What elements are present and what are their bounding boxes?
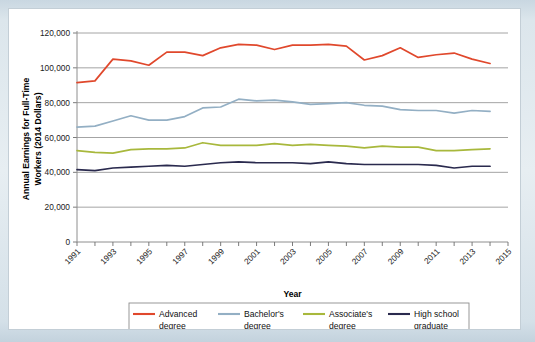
x-tick-label: 1999: [206, 246, 226, 266]
y-tick-label: 120,000: [40, 28, 70, 38]
line-chart: 020,00040,00060,00080,000100,000120,000 …: [9, 9, 520, 329]
y-tick-label: 40,000: [45, 167, 71, 177]
y-tick-label: 80,000: [45, 98, 71, 108]
legend-label-bachelor-s-degree: Bachelor's: [244, 309, 284, 319]
x-axis-tick-labels: 1991199319951997199920012003200520072009…: [62, 246, 513, 266]
chart-legend: AdvanceddegreeBachelor'sdegreeAssociate'…: [129, 303, 469, 329]
x-tick-label: 1993: [98, 246, 118, 266]
series-line-advanced-degree: [77, 44, 490, 82]
x-tick-label: 2001: [242, 246, 262, 266]
x-tick-label: 1997: [170, 246, 190, 266]
series-line-associate-s-degree: [77, 143, 490, 153]
x-tick-label: 2011: [422, 246, 442, 266]
y-tick-label: 60,000: [45, 133, 71, 143]
series-line-high-school-graduate: [77, 162, 490, 171]
legend-label-advanced-degree-line2: degree: [159, 321, 186, 329]
x-axis-title: Year: [283, 289, 302, 299]
y-tick-label: 0: [65, 237, 70, 247]
x-tick-label: 2003: [278, 246, 298, 266]
x-tick-label: 2009: [386, 246, 406, 266]
y-tick-label: 20,000: [45, 202, 71, 212]
x-tick-label: 1991: [62, 246, 82, 266]
legend-label-high-school-graduate-line2: graduate: [414, 321, 448, 329]
y-axis-ticks: [73, 33, 77, 242]
legend-label-bachelor-s-degree-line2: degree: [244, 321, 271, 329]
legend-label-high-school-graduate: High school: [414, 309, 459, 319]
legend-label-advanced-degree: Advanced: [159, 309, 197, 319]
chart-svg: 020,00040,00060,00080,000100,000120,000 …: [9, 9, 520, 329]
x-tick-label: 2007: [350, 246, 370, 266]
x-tick-label: 1995: [134, 246, 154, 266]
legend-label-associate-s-degree-line2: degree: [329, 321, 356, 329]
x-tick-label: 2013: [457, 246, 477, 266]
y-axis-title-line2: Workers (2014 Dollars): [33, 92, 43, 185]
x-tick-label: 2015: [493, 246, 513, 266]
legend-label-associate-s-degree: Associate's: [329, 309, 372, 319]
x-tick-label: 2005: [314, 246, 334, 266]
y-tick-label: 100,000: [40, 63, 70, 73]
chart-panel: 020,00040,00060,00080,000100,000120,000 …: [9, 9, 520, 329]
x-axis-ticks: [77, 242, 508, 246]
series-line-bachelor-s-degree: [77, 99, 490, 127]
gridlines: [77, 33, 508, 207]
y-axis-tick-labels: 020,00040,00060,00080,000100,000120,000: [40, 28, 70, 247]
y-axis-title-line1: Annual Earnings for Full-Time: [21, 78, 31, 201]
series-lines: [77, 44, 490, 170]
